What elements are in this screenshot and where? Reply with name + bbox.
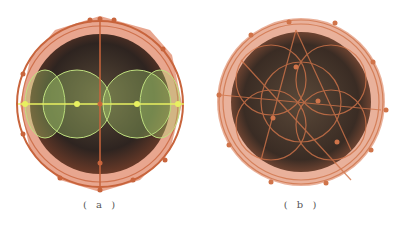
panel-b: ( b ) <box>201 0 402 227</box>
panel-a: ( a ) <box>0 0 201 227</box>
panel-a-caption: ( a ) <box>0 199 201 210</box>
sphere-wireframe-b <box>201 0 402 227</box>
panel-b-caption: ( b ) <box>201 199 402 210</box>
sphere-wireframe-a <box>0 0 201 227</box>
